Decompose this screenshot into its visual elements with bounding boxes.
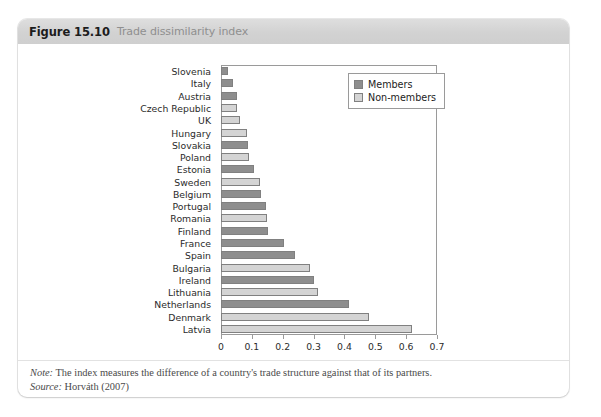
y-axis-label-austria: Austria	[178, 90, 211, 101]
note-label: Note:	[30, 367, 53, 378]
y-axis-label-lithuania: Lithuania	[168, 287, 211, 298]
bar-rect	[221, 251, 295, 259]
legend-item-members: Members	[354, 78, 436, 91]
x-axis-tick	[344, 335, 345, 339]
bar-rect	[221, 141, 248, 149]
bar-romania	[221, 212, 437, 224]
bar-rect	[221, 276, 314, 284]
y-axis-label-sweden: Sweden	[174, 176, 211, 187]
source-label: Source:	[30, 381, 62, 392]
y-axis-label-poland: Poland	[180, 152, 211, 163]
bar-portugal	[221, 200, 437, 212]
y-axis-label-latvia: Latvia	[183, 323, 211, 334]
bar-ireland	[221, 274, 437, 286]
legend-swatch-icon	[354, 80, 363, 89]
y-axis-label-slovenia: Slovenia	[171, 66, 211, 77]
x-axis-label-0.4: 0.4	[337, 341, 352, 352]
bar-france	[221, 237, 437, 249]
y-axis-label-netherlands: Netherlands	[154, 299, 211, 310]
bar-rect	[221, 104, 237, 112]
legend-label: Non-members	[368, 92, 436, 103]
bar-rect	[221, 214, 267, 222]
legend-item-nonmembers: Non-members	[354, 91, 436, 104]
bar-rect	[221, 165, 254, 173]
note-text: The index measures the difference of a c…	[56, 367, 432, 378]
bar-rect	[221, 264, 310, 272]
figure-note: Note: The index measures the difference …	[30, 366, 557, 380]
bar-bulgaria	[221, 262, 437, 274]
figure-caption: Trade dissimilarity index	[117, 25, 248, 38]
legend-swatch-icon	[354, 93, 363, 102]
bar-estonia	[221, 163, 437, 175]
bar-lithuania	[221, 286, 437, 298]
x-axis-tick	[375, 335, 376, 339]
x-axis-label-0: 0	[218, 341, 224, 352]
y-axis-label-belgium: Belgium	[173, 188, 211, 199]
bar-rect	[221, 227, 268, 235]
bar-latvia	[221, 323, 437, 335]
y-axis-labels: SloveniaItalyAustriaCzech RepublicUKHung…	[78, 65, 217, 335]
y-axis-label-hungary: Hungary	[171, 127, 211, 138]
bar-rect	[221, 190, 261, 198]
figure-container: Figure 15.10 Trade dissimilarity index S…	[18, 19, 569, 397]
bar-rect	[221, 153, 249, 161]
x-axis-label-0.1: 0.1	[244, 341, 259, 352]
x-axis-label-0.3: 0.3	[306, 341, 321, 352]
figure-source: Source: Horváth (2007)	[30, 380, 557, 394]
x-axis-tick	[283, 335, 284, 339]
figure-header: Figure 15.10 Trade dissimilarity index	[18, 19, 569, 45]
bar-sweden	[221, 176, 437, 188]
bar-netherlands	[221, 298, 437, 310]
chart-legend: MembersNon-members	[348, 73, 445, 109]
y-axis-label-slovakia: Slovakia	[172, 139, 211, 150]
bar-rect	[221, 202, 266, 210]
chart-plot-area: SloveniaItalyAustriaCzech RepublicUKHung…	[18, 45, 569, 360]
x-axis-label-0.2: 0.2	[275, 341, 290, 352]
x-axis-tick	[314, 335, 315, 339]
bar-rect	[221, 178, 260, 186]
x-axis-tick	[437, 335, 438, 339]
bar-uk	[221, 114, 437, 126]
bar-rect	[221, 67, 228, 75]
bar-rect	[221, 92, 237, 100]
bar-rect	[221, 325, 412, 333]
bar-rect	[221, 300, 349, 308]
y-axis-label-france: France	[180, 237, 211, 248]
y-axis-label-uk: UK	[198, 115, 211, 126]
bar-rect	[221, 116, 240, 124]
bar-belgium	[221, 188, 437, 200]
y-axis-label-estonia: Estonia	[177, 164, 211, 175]
bar-spain	[221, 249, 437, 261]
figure-footer: Note: The index measures the difference …	[18, 360, 569, 394]
x-axis-label-0.6: 0.6	[399, 341, 414, 352]
x-axis-label-0.7: 0.7	[430, 341, 445, 352]
legend-label: Members	[368, 79, 412, 90]
y-axis-label-portugal: Portugal	[172, 201, 211, 212]
bar-rect	[221, 239, 284, 247]
x-axis-label-0.5: 0.5	[368, 341, 383, 352]
y-axis-label-spain: Spain	[185, 250, 211, 261]
y-axis-label-romania: Romania	[170, 213, 211, 224]
bar-rect	[221, 129, 247, 137]
x-axis-tick	[221, 335, 222, 339]
figure-number: Figure 15.10	[29, 25, 110, 39]
bar-slovakia	[221, 139, 437, 151]
bar-denmark	[221, 311, 437, 323]
y-axis-label-italy: Italy	[191, 78, 211, 89]
y-axis-label-ireland: Ireland	[179, 274, 211, 285]
y-axis-label-bulgaria: Bulgaria	[172, 262, 211, 273]
bar-finland	[221, 225, 437, 237]
y-axis-label-finland: Finland	[178, 225, 211, 236]
bar-hungary	[221, 127, 437, 139]
bar-rect	[221, 288, 318, 296]
bar-rect	[221, 313, 369, 321]
y-axis-label-czech-republic: Czech Republic	[140, 102, 211, 113]
bar-rect	[221, 79, 233, 87]
bar-poland	[221, 151, 437, 163]
x-axis-tick	[252, 335, 253, 339]
x-axis-tick	[406, 335, 407, 339]
y-axis-label-denmark: Denmark	[168, 311, 211, 322]
source-text: Horváth (2007)	[65, 381, 129, 392]
